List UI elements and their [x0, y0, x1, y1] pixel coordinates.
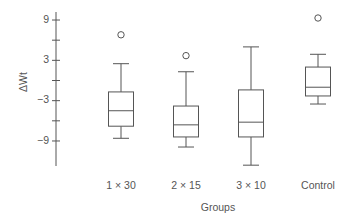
- box-2: [174, 52, 199, 147]
- x-tick-label: Control: [301, 179, 335, 191]
- x-axis-labels: 1 × 302 × 153 × 10Control: [106, 179, 335, 191]
- iqr-box: [109, 92, 134, 126]
- box-3: [239, 47, 264, 165]
- outlier-point: [183, 52, 189, 58]
- y-tick-label: 9: [43, 13, 49, 25]
- box-4: [306, 15, 331, 104]
- outlier-point: [118, 32, 124, 38]
- y-axis-label: ΔWt: [17, 72, 29, 92]
- y-axis: 93−3−9: [37, 12, 60, 166]
- y-tick-label: −9: [37, 134, 49, 146]
- boxes: [109, 15, 331, 165]
- iqr-box: [306, 67, 331, 96]
- x-tick-label: 3 × 10: [236, 179, 266, 191]
- y-tick-label: −3: [37, 93, 49, 105]
- box-plot-chart: 93−3−9 1 × 302 × 153 × 10Control ΔWt Gro…: [0, 0, 347, 222]
- x-tick-label: 1 × 30: [106, 179, 136, 191]
- box-1: [109, 32, 134, 139]
- outlier-point: [315, 15, 321, 21]
- iqr-box: [239, 90, 264, 137]
- y-tick-label: 3: [43, 53, 49, 65]
- x-axis-label: Groups: [201, 201, 235, 213]
- iqr-box: [174, 106, 199, 137]
- x-tick-label: 2 × 15: [171, 179, 201, 191]
